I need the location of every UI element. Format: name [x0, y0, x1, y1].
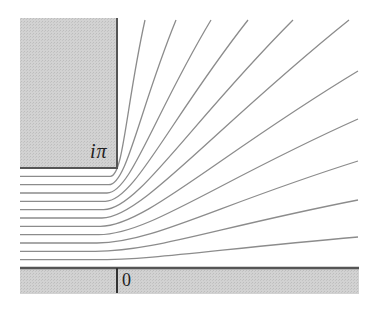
streamline-1: [20, 237, 358, 260]
lower-wall-region: [20, 268, 359, 294]
streamline-3: [20, 161, 358, 243]
origin-label-zero: 0: [122, 270, 131, 291]
streamline-diagram: [0, 0, 374, 314]
corner-label-i-pi: iπ: [90, 140, 108, 163]
